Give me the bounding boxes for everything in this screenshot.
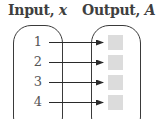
mapping-arrows — [0, 0, 156, 119]
arrow-icon — [49, 43, 103, 103]
